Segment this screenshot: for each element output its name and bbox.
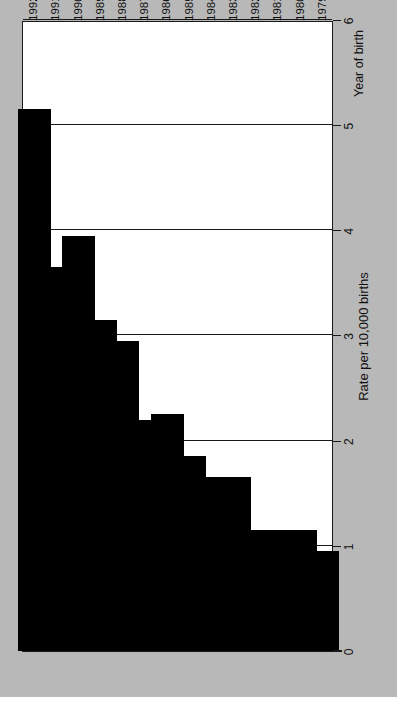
category-label-1984: 1984 bbox=[205, 0, 217, 21]
category-label-1990: 1990 bbox=[72, 0, 84, 21]
category-label-1985: 1985 bbox=[183, 0, 195, 21]
value-axis-tick bbox=[333, 651, 341, 652]
chart-rotation-host: 0123456 Rate per 10,000 births 197919801… bbox=[0, 0, 397, 697]
value-axis-tick-label: 0 bbox=[342, 649, 356, 656]
category-label-1980: 1980 bbox=[294, 0, 306, 21]
category-label-1979: 1979 bbox=[316, 0, 328, 21]
category-label-1992: 1992 bbox=[27, 0, 39, 21]
chart-page-background: 0123456 Rate per 10,000 births 197919801… bbox=[0, 0, 397, 697]
category-label-1986: 1986 bbox=[160, 0, 172, 21]
value-axis-tick bbox=[333, 230, 341, 231]
value-axis-title: Rate per 10,000 births bbox=[356, 21, 371, 652]
category-label-1989: 1989 bbox=[94, 0, 106, 21]
category-label-1982: 1982 bbox=[249, 0, 261, 21]
value-axis-tick-label: 6 bbox=[342, 18, 356, 25]
category-axis: 1979198019811982198319841985198619871988… bbox=[22, 0, 333, 21]
value-axis-tick-label: 1 bbox=[342, 544, 356, 551]
category-label-1991: 1991 bbox=[49, 0, 61, 21]
value-axis-tick bbox=[333, 336, 341, 337]
value-axis-tick-label: 5 bbox=[342, 123, 356, 130]
value-axis-tick bbox=[333, 546, 341, 547]
category-axis-title: Year of birth bbox=[352, 30, 366, 97]
value-axis-tick bbox=[333, 20, 341, 21]
bar-row bbox=[18, 20, 51, 651]
value-axis-tick bbox=[333, 125, 341, 126]
bar-1992[interactable] bbox=[18, 109, 51, 651]
category-label-1987: 1987 bbox=[138, 0, 150, 21]
value-axis-tick bbox=[333, 441, 341, 442]
value-axis-tick-label: 4 bbox=[342, 228, 356, 235]
category-label-1981: 1981 bbox=[271, 0, 283, 21]
value-axis-tick-label: 3 bbox=[342, 333, 356, 340]
category-label-1983: 1983 bbox=[227, 0, 239, 21]
category-label-1988: 1988 bbox=[116, 0, 128, 21]
value-axis-tick-label: 2 bbox=[342, 438, 356, 445]
plot-area bbox=[22, 21, 333, 652]
